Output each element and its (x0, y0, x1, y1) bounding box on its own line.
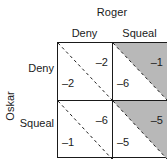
column-player-label: Roger (57, 6, 167, 19)
row-player-payoff: –5 (117, 136, 129, 148)
matrix-grid: –2 –2 –1 –6 –6 –1 –5 (57, 42, 167, 158)
column-header-deny: Deny (57, 26, 112, 40)
column-player-payoff: –1 (151, 56, 163, 68)
cell-diagonal-divider (113, 43, 167, 100)
payoff-matrix-figure: Roger Deny Squeal Oskar Deny Squeal –2 –… (0, 0, 167, 165)
column-header-squeal: Squeal (112, 26, 167, 40)
row-player-payoff: –2 (62, 77, 74, 89)
matrix-cell-squeal-squeal: –5 –5 (113, 101, 167, 159)
row-header-squeal: Squeal (8, 116, 54, 130)
cell-diagonal-divider (58, 43, 112, 100)
row-player-payoff: –1 (62, 136, 74, 148)
column-player-payoff: –2 (96, 56, 108, 68)
matrix-cell-deny-squeal: –1 –6 (113, 43, 167, 101)
row-header-deny: Deny (8, 61, 54, 75)
column-player-payoff: –6 (96, 114, 108, 126)
cell-diagonal-divider (113, 101, 167, 159)
matrix-cell-deny-deny: –2 –2 (58, 43, 113, 101)
matrix-cell-squeal-deny: –6 –1 (58, 101, 113, 159)
column-player-payoff: –5 (151, 114, 163, 126)
cell-diagonal-divider (58, 101, 112, 159)
row-player-payoff: –6 (117, 77, 129, 89)
